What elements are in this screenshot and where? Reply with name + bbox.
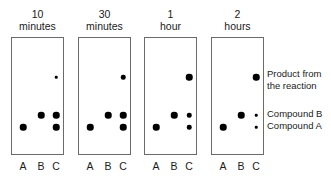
lane-label-b: B (237, 160, 244, 172)
lane-label-b: B (37, 160, 44, 172)
legend-product-line2: the reaction (267, 80, 321, 92)
spot-lane-b-compound-b (38, 112, 45, 119)
panel-header-1: 10minutes (11, 8, 64, 32)
spot-lane-c-compound-b (120, 112, 127, 119)
spot-lane-c-product (253, 74, 260, 81)
lane-label-c: C (185, 160, 193, 172)
legend-compound-b: Compound B (267, 108, 322, 120)
panel-header-time-value: 2 (211, 8, 264, 20)
lane-label-a: A (86, 160, 93, 172)
spot-lane-c-product (121, 75, 126, 80)
spot-lane-c-product (55, 76, 58, 79)
legend-product-line1: Product from (267, 68, 321, 80)
lane-label-a: A (219, 160, 226, 172)
spot-lane-c-compound-b (255, 114, 258, 117)
lane-label-c: C (119, 160, 127, 172)
spot-lane-c-product (186, 74, 193, 81)
lane-labels-panel-4: ABC (211, 160, 264, 172)
spot-lane-c-compound-a (120, 124, 127, 131)
spot-lane-a-compound-a (153, 124, 160, 131)
panel-header-time-value: 30 (78, 8, 131, 20)
spot-lane-a-compound-a (20, 124, 27, 131)
spot-lane-c-compound-b (53, 112, 60, 119)
panel-header-time-value: 1 (144, 8, 197, 20)
spot-lane-a-compound-a (87, 124, 94, 131)
lane-label-c: C (252, 160, 260, 172)
panel-header-time-unit: hours (211, 20, 264, 32)
spot-lane-c-compound-a (187, 125, 192, 130)
tlc-plate-3 (144, 37, 197, 155)
lane-label-a: A (152, 160, 159, 172)
lane-label-c: C (52, 160, 60, 172)
panel-header-time-unit: minutes (11, 20, 64, 32)
panel-header-time-value: 10 (11, 8, 64, 20)
legend-compound-a: Compound A (267, 120, 322, 132)
spot-lane-b-compound-b (171, 112, 178, 119)
lane-label-a: A (19, 160, 26, 172)
spot-lane-b-compound-b (105, 112, 112, 119)
panel-header-time-unit: hour (144, 20, 197, 32)
lane-labels-panel-3: ABC (144, 160, 197, 172)
spot-lane-c-compound-a (255, 126, 258, 129)
lane-label-b: B (170, 160, 177, 172)
legend-compounds: Compound BCompound A (267, 108, 322, 131)
spot-lane-c-compound-a (53, 124, 60, 131)
spot-lane-a-compound-a (220, 124, 227, 131)
panel-header-time-unit: minutes (78, 20, 131, 32)
lane-labels-panel-2: ABC (78, 160, 131, 172)
tlc-diagram: 10minutesABC30minutesABC1hourABC2hoursAB… (0, 0, 331, 184)
legend-product: Product fromthe reaction (267, 68, 321, 91)
lane-label-b: B (104, 160, 111, 172)
panel-header-3: 1hour (144, 8, 197, 32)
tlc-plate-2 (78, 37, 131, 155)
panel-header-4: 2hours (211, 8, 264, 32)
panel-header-2: 30minutes (78, 8, 131, 32)
spot-lane-b-compound-b (238, 112, 245, 119)
lane-labels-panel-1: ABC (11, 160, 64, 172)
tlc-plate-1 (11, 37, 64, 155)
spot-lane-c-compound-b (187, 113, 192, 118)
tlc-plate-4 (211, 37, 264, 155)
